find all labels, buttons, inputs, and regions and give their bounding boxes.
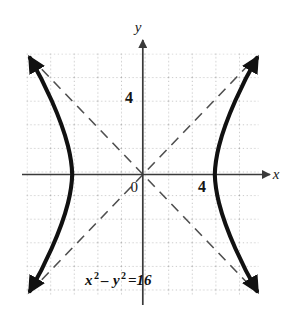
graph-svg: x y 4 4 0 x 2 – y 2 =16 [0, 0, 296, 314]
equation-x-var: x [84, 272, 93, 288]
y-tick-label-4: 4 [125, 89, 133, 106]
equation-x-exponent: 2 [94, 270, 99, 281]
x-tick-label-4: 4 [198, 178, 206, 195]
x-axis-label: x [272, 166, 280, 182]
origin-label: 0 [131, 179, 139, 195]
equation-equals-value: =16 [128, 272, 152, 288]
equation-minus-sign: – [100, 272, 109, 288]
hyperbola-graph-figure: x y 4 4 0 x 2 – y 2 =16 [0, 0, 296, 314]
equation-y-exponent: 2 [121, 270, 126, 281]
y-axis-label: y [133, 19, 142, 35]
equation-y-var: y [111, 272, 120, 288]
